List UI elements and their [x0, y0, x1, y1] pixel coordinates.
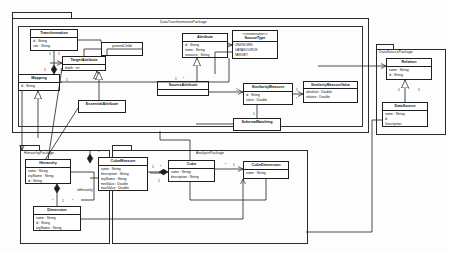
- class-parent-child[interactable]: parentChild: [101, 42, 143, 56]
- attr: id : String: [28, 179, 69, 184]
- class-hierarchy[interactable]: Hierarchy name : String keyName : String…: [25, 159, 71, 184]
- multiplicity: 1: [236, 88, 238, 92]
- multiplicity: *: [296, 97, 297, 101]
- attr: name : String: [246, 171, 287, 176]
- class-attrs-mapping: id : String: [19, 83, 59, 90]
- class-title-essential-attribute: EssentialAttribute: [79, 101, 125, 108]
- association-label-ishierarchy: isHierarchy: [77, 188, 93, 192]
- class-schema-matching[interactable]: SchemaMatching: [233, 118, 281, 131]
- attr: rule : String: [33, 44, 76, 49]
- class-title-attribute: Attribute: [183, 34, 227, 42]
- association-label-measures: measures: [150, 171, 164, 175]
- class-attrs-similarity-measure: id : String value : Double: [244, 92, 292, 104]
- class-title-schema-matching: SchemaMatching: [234, 119, 280, 126]
- class-title-transformation: Transformation: [31, 30, 77, 38]
- multiplicity: 1: [253, 112, 255, 116]
- multiplicity: 1: [44, 68, 46, 72]
- attr: relative : Double: [306, 95, 356, 100]
- multiplicity: *: [408, 88, 409, 92]
- multiplicity: *: [183, 77, 184, 81]
- multiplicity: *: [98, 151, 99, 155]
- class-title-datasource: DataSource: [383, 103, 427, 111]
- class-target-attribute[interactable]: TargetAttribute depth : int: [62, 56, 106, 71]
- class-title-similarity-measure-value: SimilarityMeasureValue: [304, 82, 357, 89]
- attr: Description: [385, 122, 426, 127]
- class-attrs-relation: name : String id : String: [387, 67, 431, 79]
- class-attrs-target-attribute: depth : int: [63, 65, 105, 72]
- class-attrs-cube: name : String description : String: [169, 169, 214, 181]
- multiplicity: *: [160, 165, 161, 169]
- class-title-parent-child: parentChild: [102, 43, 142, 50]
- class-title-target-attribute: TargetAttribute: [63, 57, 105, 65]
- attr: id : String: [389, 73, 430, 78]
- multiplicity: 1: [398, 88, 400, 92]
- multiplicity: 1: [66, 78, 68, 82]
- multiplicity: 1: [175, 77, 177, 81]
- class-cube-dimension[interactable]: CubeDimension name : String: [243, 161, 289, 179]
- multiplicity: *: [72, 199, 73, 203]
- attr: value : Double: [246, 98, 291, 103]
- package-label-data-source: DataSourcePackage: [379, 50, 413, 54]
- multiplicity: 1: [418, 88, 420, 92]
- class-attrs-datasource: name : String id Description: [383, 111, 427, 128]
- class-title-cube: Cube: [169, 161, 214, 169]
- class-attrs-attribute: id : String name : String resource : Str…: [183, 42, 227, 59]
- class-similarity-measure-value[interactable]: SimilarityMeasureValue absolute : Double…: [303, 81, 358, 103]
- multiplicity: 1: [49, 52, 51, 56]
- class-title-cube-measure: CubeMeasure: [99, 158, 147, 166]
- package-label-hierarchy: HierarchyPackage: [24, 151, 54, 155]
- multiplicity: 1: [296, 88, 298, 92]
- class-transformation[interactable]: Transformation id : String rule : String: [30, 29, 78, 51]
- class-attrs-source-attribute: [158, 90, 208, 92]
- class-similarity-measure[interactable]: SimilarityMeasure id : String value : Do…: [243, 83, 293, 105]
- attr: id : String: [21, 84, 58, 89]
- uml-class-diagram: DataTransformationPackage Transformation…: [0, 0, 449, 253]
- class-relation[interactable]: Relation name : String id : String: [386, 58, 432, 80]
- multiplicity: 1: [232, 42, 234, 46]
- class-title-mapping: Mapping: [19, 75, 59, 83]
- class-attrs-dimension: name : String id : String keyName : Stri…: [34, 215, 80, 232]
- class-title-relation: Relation: [387, 59, 431, 67]
- class-attrs-hierarchy: name : String keyName : String id : Stri…: [26, 168, 70, 185]
- class-attrs-cube-dimension: name : String: [244, 170, 288, 177]
- class-source-attribute[interactable]: SourceAttribute: [157, 81, 209, 96]
- class-attrs-cube-measure: name : String description : String keyNa…: [99, 166, 147, 193]
- multiplicity: *: [52, 199, 53, 203]
- multiplicity: 1: [62, 199, 64, 203]
- class-cube-measure[interactable]: CubeMeasure name : String description : …: [98, 157, 148, 191]
- class-cube[interactable]: Cube name : String description : String: [168, 160, 215, 182]
- class-essential-attribute[interactable]: EssentialAttribute: [78, 100, 126, 113]
- multiplicity: 1: [152, 165, 154, 169]
- attr: description : String: [171, 175, 213, 180]
- package-label-analysis: AnalysisPackage: [196, 151, 224, 155]
- multiplicity: 1: [60, 68, 62, 72]
- enum-literal: TARGET: [235, 53, 276, 58]
- class-attrs-similarity-measure-value: absolute : Double relative : Double: [304, 89, 357, 101]
- class-dimension[interactable]: Dimension name : String id : String keyN…: [33, 206, 81, 231]
- edge-datasource-lower: [306, 120, 382, 232]
- multiplicity: 1: [158, 179, 160, 183]
- multiplicity: 1: [233, 163, 235, 167]
- class-title-cube-dimension: CubeDimension: [244, 162, 288, 170]
- package-label-data-transformation: DataTransformationPackage: [160, 20, 207, 24]
- class-attrs-source-type: UNKNOWN DATASOURCE TARGET: [233, 42, 277, 59]
- attr: depth : int: [65, 66, 104, 71]
- attr: keyName : String: [36, 226, 79, 231]
- class-datasource[interactable]: DataSource name : String id Description: [382, 102, 428, 127]
- multiplicity: *: [225, 163, 226, 167]
- class-attribute[interactable]: Attribute id : String name : String reso…: [182, 33, 228, 58]
- class-title-source-attribute: SourceAttribute: [158, 82, 208, 90]
- class-title-dimension: Dimension: [34, 207, 80, 215]
- class-source-type-enumeration[interactable]: <<enumeration>> SourceType UNKNOWN DATAS…: [232, 30, 278, 59]
- class-title-similarity-measure: SimilarityMeasure: [244, 84, 292, 92]
- class-mapping[interactable]: Mapping id : String: [18, 74, 60, 91]
- attr: maxValue : Double: [101, 186, 146, 191]
- class-attrs-transformation: id : String rule : String: [31, 38, 77, 50]
- multiplicity: 1: [58, 52, 60, 56]
- class-title-hierarchy: Hierarchy: [26, 160, 70, 168]
- attr: resource : String: [185, 53, 226, 58]
